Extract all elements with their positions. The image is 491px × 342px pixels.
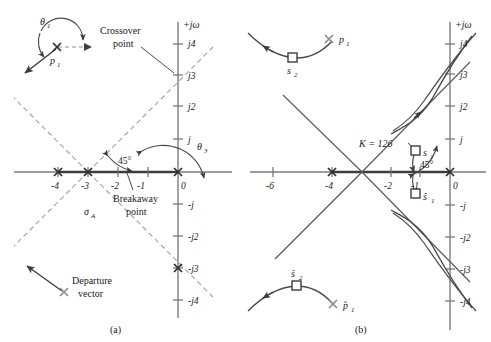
panel-b-tick-j3: j3 <box>458 70 468 80</box>
panel-a-breakaway-label-line1: Breakaway <box>113 193 158 204</box>
figure-root-locus: +jω j4 j3 j2 j -j -j2 -j3 -j4 -4 -3 -2 -… <box>0 0 491 342</box>
panel-b-tick-minus-j2: -j2 <box>460 233 471 243</box>
panel-a-tick-minus2: -2 <box>111 181 119 191</box>
panel-b-tick-zero: 0 <box>453 181 458 191</box>
panel-a-tick-j2: j2 <box>186 102 196 112</box>
panel-a-theta1-subscript: 1 <box>47 22 51 30</box>
panel-a-crossover-leader <box>141 47 174 73</box>
panel-b: +jω j4 j3 j2 j -j -j2 -j3 -j4 -6 -4 -2 -… <box>248 19 486 336</box>
panel-a-pole1-subscript: 1 <box>57 61 61 69</box>
panel-a-theta1-label: θ <box>40 16 45 27</box>
panel-a-pole1-label: p <box>49 55 55 66</box>
root-s2-marker <box>288 53 297 62</box>
panel-b-s1-label: s <box>423 147 427 158</box>
panel-b-tick-j4: j4 <box>458 39 468 49</box>
panel-b-s1-hat-subscript: 1 <box>431 197 435 205</box>
panel-b-p1-hat-subscript: 1 <box>351 306 355 314</box>
panel-b-tick-j2: j2 <box>458 102 468 112</box>
panel-b-upper-locus-branch <box>391 36 472 134</box>
departure-legend-pole-marker <box>60 288 68 296</box>
panel-b-p1-subscript: 1 <box>346 40 350 48</box>
panel-a-tick-minus-j2: -j2 <box>188 232 199 242</box>
panel-b-p1-label: p <box>338 34 344 45</box>
pole-p1-hat-lower-marker <box>329 300 337 308</box>
panel-b-lower-locus-branch <box>391 210 472 308</box>
panel-b-s2-label: s <box>287 65 291 76</box>
panel-a-breakaway-leader <box>127 173 133 190</box>
panel-a-departure-label-line1: Departure <box>72 275 113 286</box>
panel-b-s2-hat-branch <box>248 286 332 311</box>
panel-a-tick-minus-j1: -j <box>188 200 194 210</box>
panel-a-45-label: 45° <box>118 156 132 166</box>
panel-b-tick-minus4: -4 <box>325 181 333 191</box>
panel-b-s1-hat-label: ŝ <box>423 191 427 202</box>
panel-a-caption: (a) <box>110 324 121 336</box>
panel-a: +jω j4 j3 j2 j -j -j2 -j3 -j4 -4 -3 -2 -… <box>14 16 232 336</box>
panel-a-tick-j3: j3 <box>186 71 196 81</box>
panel-a-theta1-arc2 <box>38 33 44 57</box>
panel-a-imag-axis-label: +jω <box>183 19 200 30</box>
panel-b-tick-minus6: -6 <box>266 181 274 191</box>
panel-a-departure-label-line2: vector <box>78 288 104 299</box>
panel-a-tick-minus3: -3 <box>81 181 89 191</box>
panel-b-tick-minus-j1: -j <box>460 201 466 211</box>
panel-a-tick-minus-j3: -j3 <box>188 264 199 274</box>
panel-b-tick-minus1: -1 <box>411 181 419 191</box>
panel-a-crossover-label-line2: point <box>113 38 134 49</box>
panel-a-tick-zero: 0 <box>181 181 186 191</box>
root-s2-hat-marker <box>292 281 301 290</box>
panel-a-tick-minus4: -4 <box>51 181 59 191</box>
panel-b-imag-axis-label: +jω <box>455 19 472 30</box>
panel-b-gain-label: K = 126 <box>358 138 392 149</box>
panel-a-tick-minus-j4: -j4 <box>188 296 199 306</box>
panel-a-tick-j1: j <box>186 135 191 145</box>
pole-p1-upper-marker <box>325 35 333 43</box>
panel-b-tick-minus2: -2 <box>384 181 392 191</box>
panel-a-tick-j4: j4 <box>186 39 196 49</box>
panel-b-p1-hat-label: p̂ <box>342 300 348 311</box>
panel-a-reference-ray-arrow <box>84 43 92 51</box>
panel-b-45-label: 45° <box>420 160 434 170</box>
panel-a-theta3-label: θ <box>197 141 202 152</box>
panel-a-legend-arrow <box>27 266 62 291</box>
panel-b-s2-subscript: 2 <box>294 71 298 79</box>
panel-b-s2-hat-subscript: 2 <box>299 274 303 282</box>
panel-b-s2-hat-label: ŝ <box>291 268 295 279</box>
panel-b-tick-minus-j4: -j4 <box>460 297 471 307</box>
panel-b-tick-minus-j3: -j3 <box>460 265 471 275</box>
panel-a-theta3-subscript: 3 <box>203 147 208 155</box>
figure-canvas: +jω j4 j3 j2 j -j -j2 -j3 -j4 -4 -3 -2 -… <box>0 0 491 342</box>
root-s1-marker <box>411 146 420 155</box>
panel-b-caption: (b) <box>355 324 367 336</box>
panel-a-sigma-a-label: σ <box>84 206 90 217</box>
panel-a-breakaway-label-line2: point <box>126 206 147 217</box>
panel-a-crossover-label-line1: Crossover <box>100 25 141 36</box>
panel-b-s2-branch-arrow <box>263 46 273 52</box>
panel-a-sigma-a-subscript: A <box>90 212 96 220</box>
panel-a-tick-minus1: -1 <box>137 181 145 191</box>
panel-b-s2-hat-branch-arrow <box>263 292 273 298</box>
panel-b-tick-j1: j <box>458 135 463 145</box>
